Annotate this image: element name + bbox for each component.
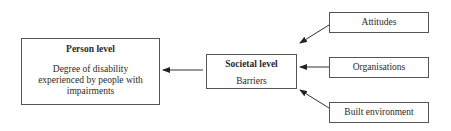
person-level-body: Degree of disability experienced by peop… <box>22 64 159 97</box>
built-environment-box: Built environment <box>329 102 429 123</box>
person-level-box: Person level Degree of disability experi… <box>21 38 160 105</box>
attitudes-box: Attitudes <box>329 12 429 33</box>
societal-level-body: Barriers <box>207 76 296 87</box>
person-level-title: Person level <box>22 44 159 55</box>
arrow-built-environment-to-societal <box>300 90 329 108</box>
organisations-label: Organisations <box>353 62 406 72</box>
organisations-box: Organisations <box>329 57 429 78</box>
built-environment-label: Built environment <box>344 107 413 117</box>
attitudes-label: Attitudes <box>362 17 397 27</box>
societal-level-title: Societal level <box>207 59 296 70</box>
arrow-attitudes-to-societal <box>300 25 329 43</box>
societal-level-box: Societal level Barriers <box>206 54 297 89</box>
